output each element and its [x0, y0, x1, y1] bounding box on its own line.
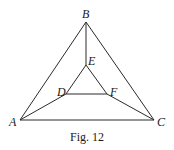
label-c: C [157, 115, 166, 129]
edge-ef [86, 65, 107, 94]
label-e: E [87, 54, 96, 68]
label-a: A [8, 115, 17, 129]
edge-de [66, 65, 86, 94]
edge-ab [20, 22, 86, 120]
triangle-diagram: B E D F A C Fig. 12 [0, 0, 174, 150]
label-f: F [109, 85, 118, 99]
label-b: B [82, 7, 90, 21]
label-d: D [56, 85, 66, 99]
figure-caption: Fig. 12 [70, 130, 104, 144]
edge-bc [86, 22, 154, 120]
